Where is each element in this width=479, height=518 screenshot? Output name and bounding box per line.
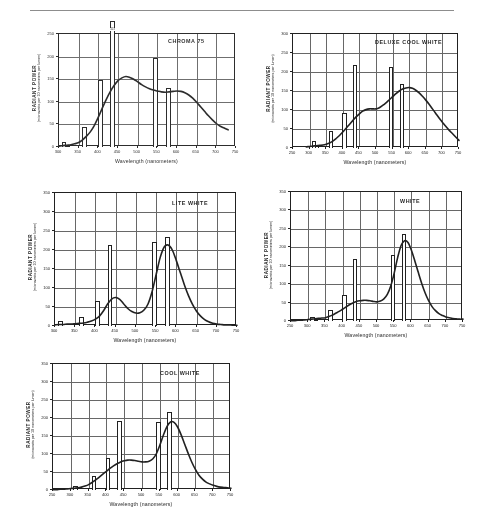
y-tick-label: 50 [270, 299, 286, 304]
y-tick-mark [290, 33, 292, 34]
y-tick-mark [52, 306, 54, 307]
y-tick-label: 100 [270, 281, 286, 286]
spectral-line-bar [342, 295, 346, 321]
y-tick-mark [52, 268, 54, 269]
plot-area-deluxe-cool-white [292, 33, 458, 147]
y-tick-mark [52, 287, 54, 288]
gridline-horizontal [55, 250, 235, 251]
x-axis-label: Wavelength (nanometers) [290, 332, 462, 338]
gridline-vertical [411, 192, 412, 319]
spectral-line-bar [65, 146, 70, 147]
x-tick-mark [230, 489, 231, 491]
x-axis-label: Wavelength (nanometers) [54, 337, 236, 343]
y-axis-label-units: (microwatts per 10 nanometers per lumen) [269, 191, 273, 319]
x-tick-label: 550 [152, 328, 159, 333]
y-tick-label: 150 [272, 88, 288, 93]
spectral-line-bar [328, 310, 332, 321]
gridline-vertical [376, 34, 377, 146]
y-tick-label: 0 [34, 323, 50, 328]
gridline-vertical [156, 193, 157, 324]
y-tick-label: 100 [272, 107, 288, 112]
chart-title-white: WHITE [400, 198, 420, 204]
gridline-vertical [359, 34, 360, 146]
plot-area-chroma-75: 413 [58, 33, 235, 146]
x-tick-mark [359, 320, 360, 322]
gridline-horizontal [291, 303, 461, 304]
gridline-vertical [394, 192, 395, 319]
spectral-line-bar [312, 141, 316, 148]
x-tick-label: 650 [192, 328, 199, 333]
x-tick-label: 650 [421, 150, 428, 155]
y-tick-mark [52, 230, 54, 231]
x-tick-mark [215, 146, 216, 148]
y-tick-mark [56, 123, 58, 124]
x-tick-mark [216, 325, 217, 327]
x-tick-label: 650 [192, 149, 199, 154]
x-tick-label: 600 [173, 149, 180, 154]
x-tick-label: 600 [407, 323, 414, 328]
y-tick-mark [288, 320, 290, 321]
gridline-vertical [75, 193, 76, 324]
plot-area-lite-white [54, 192, 236, 325]
gridline-vertical [136, 193, 137, 324]
gridline-vertical [160, 364, 161, 488]
gridline-horizontal [293, 129, 457, 130]
x-tick-label: 700 [438, 150, 445, 155]
x-tick-label: 450 [120, 492, 127, 497]
spectral-line-bar [391, 255, 395, 321]
x-tick-mark [376, 320, 377, 322]
x-tick-mark [137, 146, 138, 148]
x-tick-mark [392, 147, 393, 149]
x-tick-mark [74, 325, 75, 327]
spectral-curve-deluxe-cool-white [293, 34, 459, 148]
y-tick-label: 100 [32, 451, 48, 456]
gridline-vertical [216, 34, 217, 145]
y-tick-label: 100 [38, 98, 54, 103]
y-tick-mark [290, 128, 292, 129]
y-tick-mark [52, 325, 54, 326]
x-tick-label: 350 [71, 328, 78, 333]
x-tick-label: 300 [51, 328, 58, 333]
x-tick-mark [428, 320, 429, 322]
y-tick-mark [56, 146, 58, 147]
gridline-vertical [138, 34, 139, 145]
spectral-line-bar [353, 259, 357, 321]
y-axis-label-main: RADIANT POWER [26, 362, 31, 487]
gridline-horizontal [53, 382, 229, 383]
x-tick-mark [342, 320, 343, 322]
y-tick-label: 250 [32, 397, 48, 402]
y-axis-label-units: (microwatts per 10 nanometers per lumen) [271, 32, 275, 145]
spectral-line-bar [62, 142, 67, 147]
chart-title-cool-white: COOL WHITE [160, 370, 200, 376]
y-tick-label: 150 [32, 433, 48, 438]
x-tick-label: 550 [388, 150, 395, 155]
x-tick-label: 500 [373, 323, 380, 328]
gridline-horizontal [293, 110, 457, 111]
gridline-horizontal [291, 247, 461, 248]
gridline-vertical [326, 34, 327, 146]
x-tick-mark [115, 325, 116, 327]
y-tick-mark [290, 109, 292, 110]
gridline-horizontal [59, 102, 234, 103]
x-tick-mark [135, 325, 136, 327]
gridline-vertical [343, 192, 344, 319]
x-tick-mark [177, 489, 178, 491]
y-tick-label: 50 [272, 126, 288, 131]
x-tick-mark [105, 489, 106, 491]
spectral-line-bar [92, 476, 97, 490]
x-tick-label: 550 [153, 149, 160, 154]
chart-title-lite-white: LITE WHITE [172, 200, 208, 206]
x-tick-label: 600 [405, 150, 412, 155]
x-tick-label: 750 [227, 492, 234, 497]
gridline-vertical [442, 34, 443, 146]
gridline-vertical [98, 34, 99, 145]
x-tick-mark [410, 320, 411, 322]
x-tick-mark [358, 147, 359, 149]
x-tick-mark [309, 147, 310, 149]
x-tick-mark [342, 147, 343, 149]
y-tick-label: 300 [272, 31, 288, 36]
chart-lite-white: 3003504004505005506006507007500501001502… [0, 0, 479, 518]
x-tick-mark [325, 147, 326, 149]
x-tick-mark [52, 489, 53, 491]
x-tick-mark [88, 489, 89, 491]
